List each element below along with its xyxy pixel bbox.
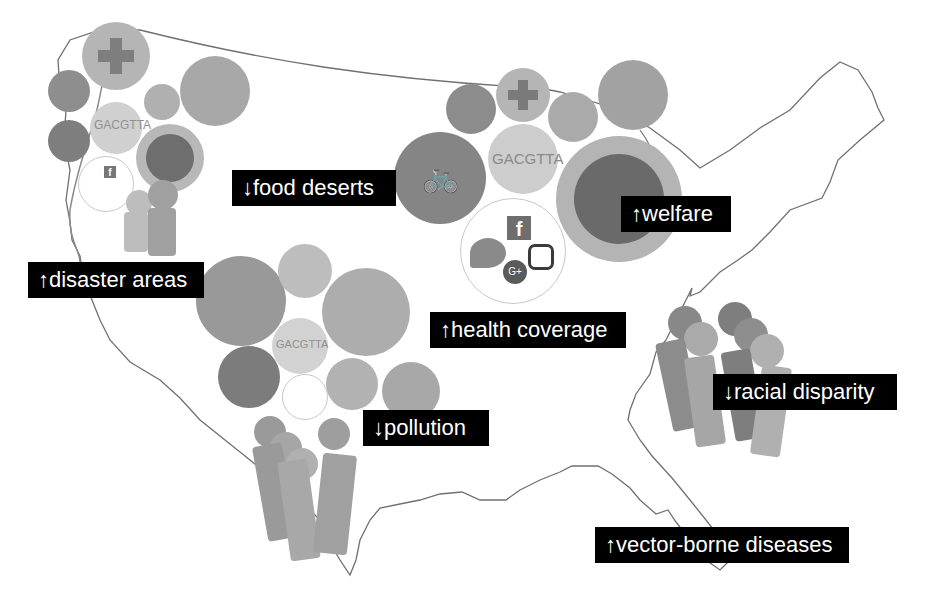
medical-cross-icon (98, 38, 134, 74)
person-head-icon (684, 322, 718, 356)
cell-grid-circle (446, 84, 496, 134)
instagram-icon (528, 244, 554, 270)
person-head-icon (318, 418, 350, 450)
label-racial-disparity: ↓racial disparity (713, 374, 897, 410)
person-head-icon (750, 334, 784, 368)
medical-cross-icon (508, 80, 538, 110)
facebook-icon: f (507, 216, 531, 240)
globe-icon (146, 134, 194, 182)
cell-grid-circle (196, 256, 286, 346)
us-map-figure: GACGTTA f 🚲 GACGTTA f G+ GACGTTA (0, 0, 928, 590)
google-plus-icon: G+ (503, 260, 527, 284)
social-media-circle (282, 374, 328, 420)
pills-circle (180, 56, 250, 126)
globe-circle (326, 358, 378, 410)
spectrum-plot-circle (548, 92, 598, 142)
person-head-icon (148, 180, 178, 210)
label-disaster-areas: ↑disaster areas (28, 262, 204, 298)
label-vector-borne-diseases: ↑vector-borne diseases (595, 527, 849, 563)
spectrum-plot-circle (322, 268, 410, 356)
dna-sequence-text: GACGTTA (94, 118, 151, 132)
facebook-icon: f (104, 166, 116, 178)
child-playing-circle (48, 120, 90, 162)
medical-cross-circle (278, 244, 332, 298)
spectrum-plot-circle (144, 84, 180, 120)
dna-sequence-text: GACGTTA (276, 338, 328, 350)
label-pollution: ↓pollution (363, 410, 489, 446)
label-welfare: ↑welfare (621, 196, 731, 232)
bicycle-icon: 🚲 (410, 162, 470, 192)
dna-sequence-text: GACGTTA (492, 150, 563, 167)
label-health-coverage: ↑health coverage (430, 312, 626, 348)
pills-circle (598, 60, 668, 130)
cell-grid-circle (48, 70, 90, 112)
twitter-icon (470, 238, 506, 268)
person-body-icon (124, 212, 148, 252)
label-food-deserts: ↓food deserts (232, 170, 396, 206)
person-body-icon (148, 208, 176, 256)
child-playing-circle (218, 346, 280, 408)
